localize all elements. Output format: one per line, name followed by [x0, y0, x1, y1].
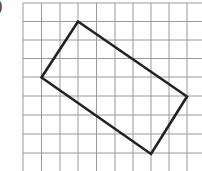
grid-diagram [0, 0, 202, 171]
